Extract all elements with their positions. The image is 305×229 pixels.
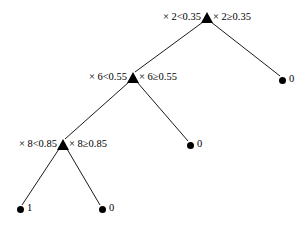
split-condition-right: × 8≥0.85 bbox=[69, 139, 107, 150]
decision-tree-figure: × 2<0.35 × 2≥0.35 × 6<0.55 × 6≥0.55 × 8<… bbox=[0, 0, 305, 229]
tree-edge bbox=[211, 22, 280, 76]
tree-edge-layer bbox=[0, 0, 305, 229]
triangle-marker bbox=[57, 139, 69, 150]
tree-edge bbox=[137, 82, 188, 141]
circle-marker bbox=[279, 77, 286, 84]
tree-edge bbox=[22, 149, 59, 205]
tree-edge bbox=[65, 82, 129, 139]
circle-marker bbox=[187, 142, 194, 149]
leaf-value: 0 bbox=[109, 203, 114, 214]
circle-marker bbox=[99, 206, 106, 213]
tree-edge bbox=[67, 149, 100, 205]
split-condition-right: × 2≥0.35 bbox=[213, 12, 251, 23]
split-condition-left: × 6<0.55 bbox=[89, 72, 127, 83]
split-condition-right: × 6≥0.55 bbox=[139, 72, 177, 83]
split-condition-left: × 8<0.85 bbox=[19, 139, 57, 150]
leaf-value: 1 bbox=[27, 203, 32, 214]
leaf-value: 0 bbox=[289, 74, 294, 85]
circle-marker bbox=[17, 206, 24, 213]
tree-edge bbox=[135, 22, 203, 72]
leaf-value: 0 bbox=[197, 139, 202, 150]
triangle-marker bbox=[201, 12, 213, 23]
split-condition-left: × 2<0.35 bbox=[163, 12, 201, 23]
triangle-marker bbox=[127, 72, 139, 83]
